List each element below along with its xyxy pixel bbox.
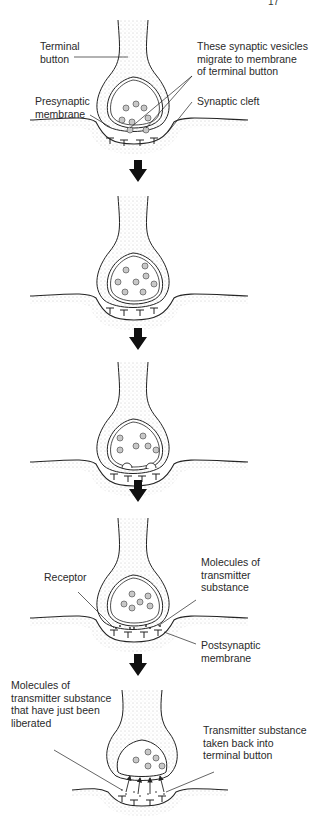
- label-liberated-molecules: Molecules of transmitter substance that …: [11, 679, 111, 729]
- label-terminal-button: Terminal button: [40, 40, 80, 65]
- label-receptor: Receptor: [44, 571, 87, 584]
- label-presynaptic-membrane: Presynaptic membrane: [35, 95, 90, 120]
- label-reuptake: Transmitter substance taken back into te…: [203, 724, 306, 762]
- arrow-down-icon: [129, 328, 147, 350]
- label-postsynaptic-membrane: Postsynaptic membrane: [201, 639, 261, 664]
- stage-3: [30, 362, 248, 496]
- stage-2: [30, 196, 248, 330]
- arrow-down-icon: [129, 480, 147, 502]
- arrow-down-icon: [129, 654, 147, 676]
- label-synaptic-vesicles: These synaptic vesicles migrate to membr…: [197, 40, 308, 78]
- label-synaptic-cleft: Synaptic cleft: [197, 95, 259, 108]
- arrow-down-icon: [129, 160, 147, 182]
- page-number: 17: [268, 0, 279, 7]
- label-transmitter-molecules: Molecules of transmitter substance: [201, 556, 260, 594]
